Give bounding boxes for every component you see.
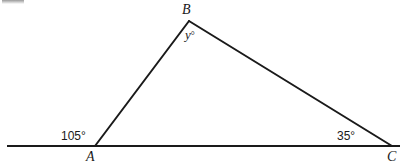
- vertex-label-a: A: [86, 150, 95, 164]
- vertex-label-b: B: [182, 3, 191, 17]
- geometry-figure: B y° A C 105° 35°: [0, 0, 404, 168]
- angle-label-35: 35°: [337, 130, 355, 142]
- vertex-label-c: C: [387, 150, 396, 164]
- degree-symbol: °: [191, 30, 195, 41]
- segment-AB: [95, 21, 189, 146]
- angle-label-105: 105°: [61, 130, 86, 142]
- segment-BC: [189, 21, 392, 146]
- angle-label-y: y°: [185, 28, 195, 41]
